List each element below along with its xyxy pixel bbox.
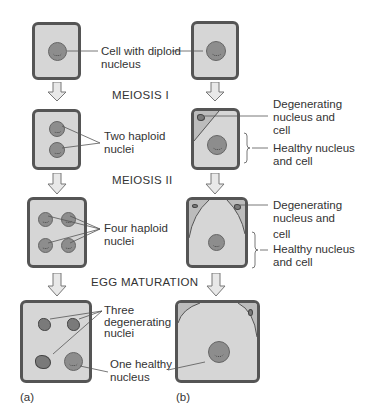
stage-meiosis-1: MEIOSIS I [112,89,169,101]
label-degenerating-nucleus-and-cell-2: Degenerating nucleus and cell [273,199,342,241]
stage-meiosis-2: MEIOSIS II [112,174,173,186]
stage-egg-maturation: EGG MATURATION [91,276,198,288]
label-healthy-nucleus-and-cell-1: Healthy nucleus and cell [273,142,355,168]
label-healthy-nucleus-and-cell-2: Healthy nucleus and cell [273,243,355,269]
label-cell-with-diploid-nucleus: Cell with diploid nucleus [101,45,181,71]
label-one-healthy-nucleus: One healthy nucleus [110,358,172,384]
label-degenerating-nucleus-and-cell-1: Degenerating nucleus and cell [273,98,342,137]
label-four-haploid-nuclei: Four haploid nuclei [104,222,168,248]
panel-a-tag: (a) [20,391,34,403]
label-three-degenerating-nuclei: Three degenerating nuclei [104,305,171,340]
panel-b-tag: (b) [176,391,190,403]
label-two-haploid-nuclei: Two haploid nuclei [104,130,165,156]
